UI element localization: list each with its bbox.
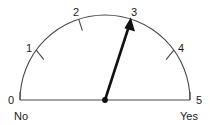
gauge-svg-canvas: 0 1 2 3 4 5 No Yes — [0, 0, 210, 125]
gauge-tick-1 — [36, 50, 44, 60]
gauge-arc — [20, 15, 190, 100]
gauge-tick-2 — [79, 19, 83, 31]
gauge-label-2: 2 — [73, 6, 79, 18]
gauge-label-0: 0 — [8, 94, 14, 106]
gauge-label-5: 5 — [196, 94, 202, 106]
gauge-anchor-label-yes: Yes — [180, 110, 198, 122]
gauge-pivot — [102, 97, 108, 103]
gauge-label-1: 1 — [26, 42, 32, 54]
gauge-tick-4 — [166, 50, 174, 60]
gauge-label-3: 3 — [131, 6, 137, 18]
gauge-chart: 0 1 2 3 4 5 No Yes — [0, 0, 210, 125]
gauge-label-4: 4 — [178, 42, 184, 54]
gauge-anchor-label-no: No — [14, 110, 28, 122]
gauge-needle — [105, 26, 129, 100]
